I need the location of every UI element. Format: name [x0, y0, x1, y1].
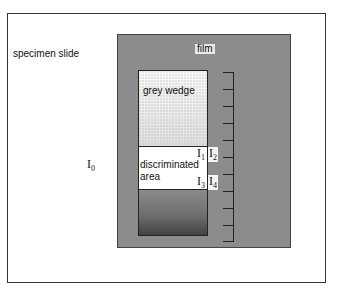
discriminated-area-label-line1: discriminated — [140, 160, 199, 170]
discriminated-area-label-line2: area — [140, 172, 160, 182]
specimen-slide-label: specimen slide — [13, 49, 79, 59]
i0-label: I0 — [86, 158, 96, 173]
film-label: film — [195, 44, 215, 54]
scale-tick — [223, 72, 234, 73]
wedge-light-section — [139, 71, 207, 146]
scale-tick — [223, 174, 234, 175]
grey-wedge-label: grey wedge — [143, 86, 195, 96]
scale-tick — [223, 106, 234, 107]
i0-sub: 0 — [91, 164, 95, 173]
i4-sub: 4 — [213, 181, 217, 190]
scale-tick — [223, 208, 234, 209]
wedge-dark-section — [139, 190, 207, 236]
scale-tick — [223, 123, 234, 124]
scale-tick — [223, 241, 234, 242]
scale-tick — [223, 89, 234, 90]
scale-tick — [223, 225, 234, 226]
scale-tick — [223, 140, 234, 141]
i3-label: I3 — [196, 175, 206, 190]
i2-sub: 2 — [213, 153, 217, 162]
scale-tick — [223, 157, 234, 158]
i1-label: I1 — [196, 147, 206, 162]
i2-label: I2 — [208, 147, 218, 162]
i3-sub: 3 — [201, 181, 205, 190]
i1-sub: 1 — [201, 153, 205, 162]
scale-tick — [223, 191, 234, 192]
i4-label: I4 — [208, 175, 218, 190]
